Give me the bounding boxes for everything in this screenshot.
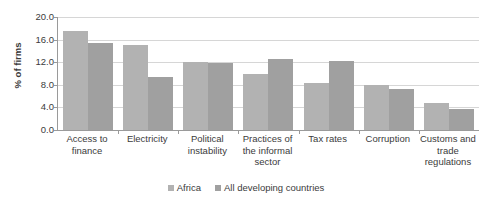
y-tick-label: 16.0	[18, 35, 54, 45]
x-tick-label-line: Electricity	[117, 133, 177, 145]
x-tick-label: Electricity	[117, 133, 177, 145]
x-tick-label-line: Customs and	[418, 133, 478, 145]
bar	[449, 109, 474, 130]
x-tick-label: Access tofinance	[57, 133, 117, 156]
bar-group	[299, 17, 359, 130]
bar	[268, 59, 293, 130]
x-tick-label: Tax rates	[298, 133, 358, 145]
bar-chart: % of firms 20.016.012.08.04.00.0 Access …	[0, 0, 492, 202]
bar	[389, 89, 414, 130]
bar-group	[58, 17, 118, 130]
x-tick-label: Practices ofthe informalsector	[237, 133, 297, 168]
bar	[123, 45, 148, 130]
x-tick-label-line: trade	[418, 145, 478, 157]
bar	[329, 61, 354, 130]
legend-swatch-icon	[215, 185, 221, 191]
x-tick-label: Politicalinstability	[177, 133, 237, 156]
plot-area	[57, 17, 479, 131]
y-tick-label: 4.0	[18, 102, 54, 112]
y-axis-tick-mark	[54, 130, 58, 131]
x-tick-label-line: Practices of	[237, 133, 297, 145]
x-tick-label-line: regulations	[418, 156, 478, 168]
bar	[208, 63, 233, 130]
x-tick-label: Corruption	[358, 133, 418, 145]
bar	[243, 74, 268, 131]
x-tick-label: Customs andtraderegulations	[418, 133, 478, 168]
x-tick-label-line: Tax rates	[298, 133, 358, 145]
legend-swatch-icon	[168, 185, 174, 191]
bar-group	[238, 17, 298, 130]
y-tick-label: 12.0	[18, 57, 54, 67]
legend-label: All developing countries	[224, 182, 324, 193]
bar-group	[118, 17, 178, 130]
legend-item[interactable]: All developing countries	[215, 182, 324, 193]
bar	[88, 43, 113, 130]
x-tick-label-line: the informal	[237, 145, 297, 157]
x-tick-label-line: instability	[177, 145, 237, 157]
bar	[424, 103, 449, 130]
bar-group	[178, 17, 238, 130]
chart-legend: AfricaAll developing countries	[0, 182, 492, 193]
legend-item[interactable]: Africa	[168, 182, 201, 193]
y-tick-label: 20.0	[18, 12, 54, 22]
y-tick-label: 0.0	[18, 125, 54, 135]
bar	[183, 62, 208, 130]
x-tick-label-line: sector	[237, 156, 297, 168]
bar	[63, 31, 88, 130]
x-tick-label-line: Access to	[57, 133, 117, 145]
bar	[364, 85, 389, 130]
legend-label: Africa	[177, 182, 201, 193]
y-tick-label: 8.0	[18, 80, 54, 90]
x-tick-label-line: finance	[57, 145, 117, 157]
y-axis-tick-labels: 20.016.012.08.04.00.0	[18, 0, 54, 140]
bar	[304, 83, 329, 130]
x-axis-category-labels: Access tofinanceElectricityPoliticalinst…	[57, 133, 478, 179]
x-tick-label-line: Corruption	[358, 133, 418, 145]
bar	[148, 77, 173, 130]
bar-group	[419, 17, 479, 130]
bar-group	[359, 17, 419, 130]
x-tick-label-line: Political	[177, 133, 237, 145]
